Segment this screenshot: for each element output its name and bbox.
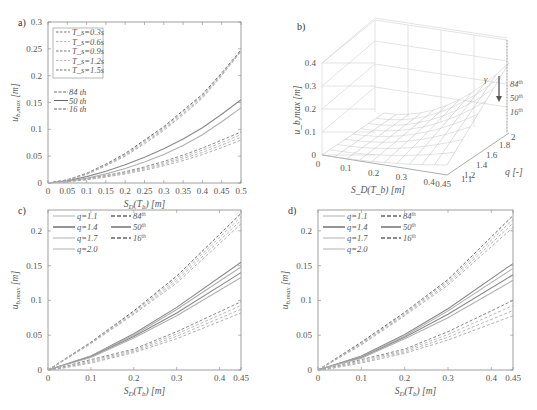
x-tick-label: 0.2: [368, 168, 379, 178]
x-tick-label: 0.4: [214, 373, 226, 383]
z-tick-label: 0.4: [305, 58, 317, 68]
y-tick-label: 0.3: [31, 17, 43, 27]
panel-label: d): [288, 205, 296, 217]
legend-entry: T_s=1.5s: [72, 65, 105, 75]
legend-a: T_s=0.3sT_s=0.6sT_s=0.9sT_s=1.2sT_s=1.5s…: [53, 27, 105, 114]
y-axis-label: ub,max [m]: [280, 271, 292, 310]
legend-entry: 16th: [133, 233, 146, 243]
legend-entry: 84th: [403, 211, 416, 221]
z-axis-label: u_b,max [m]: [292, 85, 302, 134]
x-tick-label: 0.45: [505, 373, 521, 383]
legend-c: q=1.1q=1.4q=1.7q=2.084th50th16th: [53, 211, 146, 254]
percentile-annotation: 50th: [510, 93, 523, 103]
legend-entry: q=2.0: [77, 244, 98, 254]
x-tick-label: 0.25: [137, 186, 153, 196]
legend-entry: q=1.4: [347, 222, 368, 232]
x-tick-label: 0.4: [423, 177, 435, 187]
x-tick-label: 0.3: [442, 373, 454, 383]
legend-entry: 50th: [403, 222, 416, 232]
y-tick-label: 0: [308, 365, 313, 375]
z-tick-label: 0.1: [305, 127, 316, 137]
series-line: [318, 264, 513, 370]
x-tick-label: 0.2: [128, 373, 139, 383]
gamma-annotation: γ: [484, 74, 488, 84]
y-axis-label: ub,max [m]: [10, 83, 22, 122]
y-tick-label: 0.05: [26, 330, 42, 340]
chart-panel-c: 00.10.20.30.40.4500.050.10.150.2c)SD(Tb)…: [10, 205, 249, 398]
chart-panel-b: b)00.10.20.30.400.10.20.30.40.451.11.21.…: [292, 18, 523, 196]
x-tick-label: 0.45: [435, 179, 451, 189]
panel-label: b): [297, 21, 305, 33]
series-line: [48, 262, 241, 370]
y-axis-label: ub,max [m]: [10, 271, 22, 310]
x-tick-label: 0.3: [396, 172, 408, 182]
x-tick-label: 0: [316, 159, 321, 169]
q-tick-label: 1.8: [499, 140, 511, 150]
x-tick-label: 0.4: [197, 186, 209, 196]
y-tick-label: 0.25: [26, 44, 42, 54]
x-tick-label: 0.3: [171, 373, 183, 383]
series-line: [48, 302, 241, 370]
y-tick-label: 0.1: [31, 124, 42, 134]
figure-canvas: 00.050.10.150.20.250.30.350.40.450.500.0…: [0, 0, 537, 410]
legend-entry: q=2.0: [347, 244, 368, 254]
y-tick-label: 0.05: [296, 330, 312, 340]
legend-entry: T_s=0.6s: [72, 37, 105, 47]
x-axis-label: S_D(T_b) [m]: [351, 185, 405, 196]
q-axis-label: q [-]: [505, 167, 523, 177]
x-axis-label: SD(Tb) [m]: [124, 199, 166, 211]
x-tick-label: 0.1: [85, 373, 96, 383]
y-tick-label: 0.15: [26, 261, 42, 271]
x-tick-label: 0.3: [158, 186, 170, 196]
x-tick-label: 0: [46, 186, 51, 196]
legend-entry: 50th: [133, 222, 146, 232]
x-tick-label: 0.35: [175, 186, 191, 196]
x-tick-label: 0.1: [340, 163, 351, 173]
x-tick-label: 0.4: [486, 373, 498, 383]
panel-label: a): [18, 17, 26, 29]
series-line: [318, 280, 513, 370]
q-tick-label: 2: [511, 132, 516, 142]
chart-panel-d: 00.10.20.30.40.4500.050.10.150.2d)SD(Tb)…: [280, 205, 521, 398]
panel-label: c): [18, 205, 26, 217]
legend-entry: T_s=1.2s: [72, 56, 105, 66]
q-tick-label: 1.2: [464, 170, 475, 180]
x-tick-label: 0.45: [233, 373, 249, 383]
y-tick-label: 0: [38, 178, 43, 188]
y-tick-label: 0.2: [31, 226, 42, 236]
series-line: [318, 300, 513, 370]
q-tick-label: 1.4: [476, 160, 488, 170]
y-tick-label: 0.1: [301, 295, 312, 305]
x-tick-label: 0.15: [98, 186, 114, 196]
y-tick-label: 0: [38, 365, 43, 375]
y-tick-label: 0.05: [26, 151, 42, 161]
legend-entry: q=1.7: [77, 233, 98, 243]
percentile-annotation: 84th: [510, 79, 523, 89]
legend-entry: T_s=0.9s: [72, 46, 105, 56]
x-tick-label: 0: [316, 373, 321, 383]
y-tick-label: 0.2: [31, 71, 42, 81]
y-tick-label: 0.2: [301, 226, 312, 236]
x-tick-label: 0.1: [81, 186, 92, 196]
x-tick-label: 0.45: [214, 186, 230, 196]
x-axis-label: SD(Tb) [m]: [395, 386, 437, 398]
series-line: [48, 108, 241, 183]
y-tick-label: 0.15: [26, 98, 42, 108]
y-tick-label: 0.15: [296, 261, 312, 271]
x-axis-label: SD(Tb) [m]: [124, 386, 166, 398]
percentile-annotation: 16th: [510, 107, 523, 117]
x-tick-label: 0.2: [120, 186, 131, 196]
x-tick-label: 0.1: [356, 373, 367, 383]
legend-entry: T_s=0.3s: [72, 27, 105, 37]
legend-entry: q=1.1: [77, 211, 98, 221]
x-tick-label: 0.05: [59, 186, 75, 196]
z-tick-label: 0.2: [305, 104, 316, 114]
legend-entry: 16 th: [69, 104, 86, 114]
chart-panel-a: 00.050.10.150.20.250.30.350.40.450.500.0…: [10, 17, 247, 211]
z-tick-label: 0.3: [305, 81, 317, 91]
x-tick-label: 0.2: [399, 373, 410, 383]
legend-d: q=1.1q=1.4q=1.7q=2.084th50th16th: [323, 211, 416, 254]
y-tick-label: 0.1: [31, 295, 42, 305]
legend-entry: q=1.7: [347, 233, 368, 243]
legend-entry: 16th: [403, 233, 416, 243]
